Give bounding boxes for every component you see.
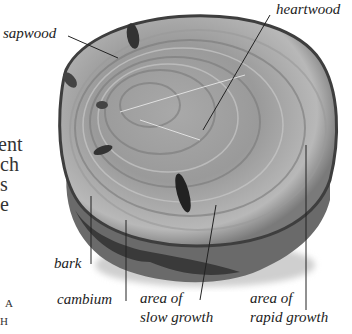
label-rapid-growth-2: rapid growth (250, 309, 328, 326)
label-rapid-growth-1: area of (250, 290, 292, 307)
cropped-body-text-4: e (0, 192, 9, 216)
label-slow-growth-2: slow growth (140, 309, 213, 326)
label-heartwood: heartwood (276, 1, 340, 18)
tree-cross-section-illustration (0, 0, 352, 334)
cropped-caption-2: H (0, 312, 9, 330)
cropped-caption-1: A (5, 294, 14, 312)
label-slow-growth-1: area of (140, 290, 182, 307)
label-cambium: cambium (57, 291, 112, 308)
label-bark: bark (54, 255, 82, 272)
label-sapwood: sapwood (3, 25, 56, 42)
